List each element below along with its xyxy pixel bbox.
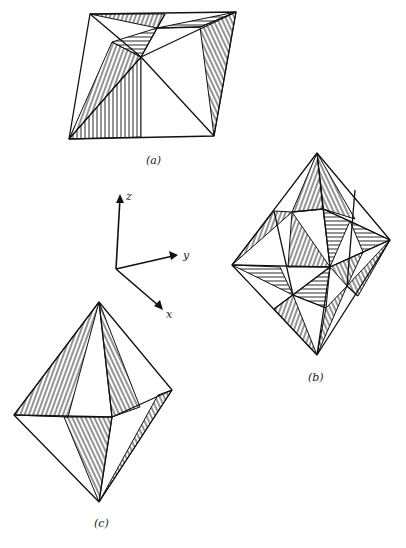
facet-a6 <box>200 12 236 136</box>
facet-b4 <box>288 212 330 267</box>
label-b: (b) <box>308 371 324 384</box>
axis-label-x: x <box>166 308 173 321</box>
z-arrow-icon <box>116 194 124 203</box>
facet-a4 <box>90 14 165 28</box>
diagram-canvas: (a) z y x (b) <box>0 0 406 548</box>
facet-b7 <box>232 265 293 295</box>
y-arrow-icon <box>169 251 178 260</box>
facet-b3 <box>232 211 292 265</box>
label-a: (a) <box>146 154 161 167</box>
coordinate-axes: z y x <box>116 190 190 321</box>
x-arrow-icon <box>154 300 163 310</box>
label-c: (c) <box>94 517 109 530</box>
axis-label-z: z <box>125 190 132 203</box>
axis-label-y: y <box>182 249 190 262</box>
facet-c3 <box>64 417 112 502</box>
figure-a: (a) <box>69 12 236 167</box>
figure-c: (c) <box>14 302 172 530</box>
figure-b: (b) <box>232 153 390 384</box>
